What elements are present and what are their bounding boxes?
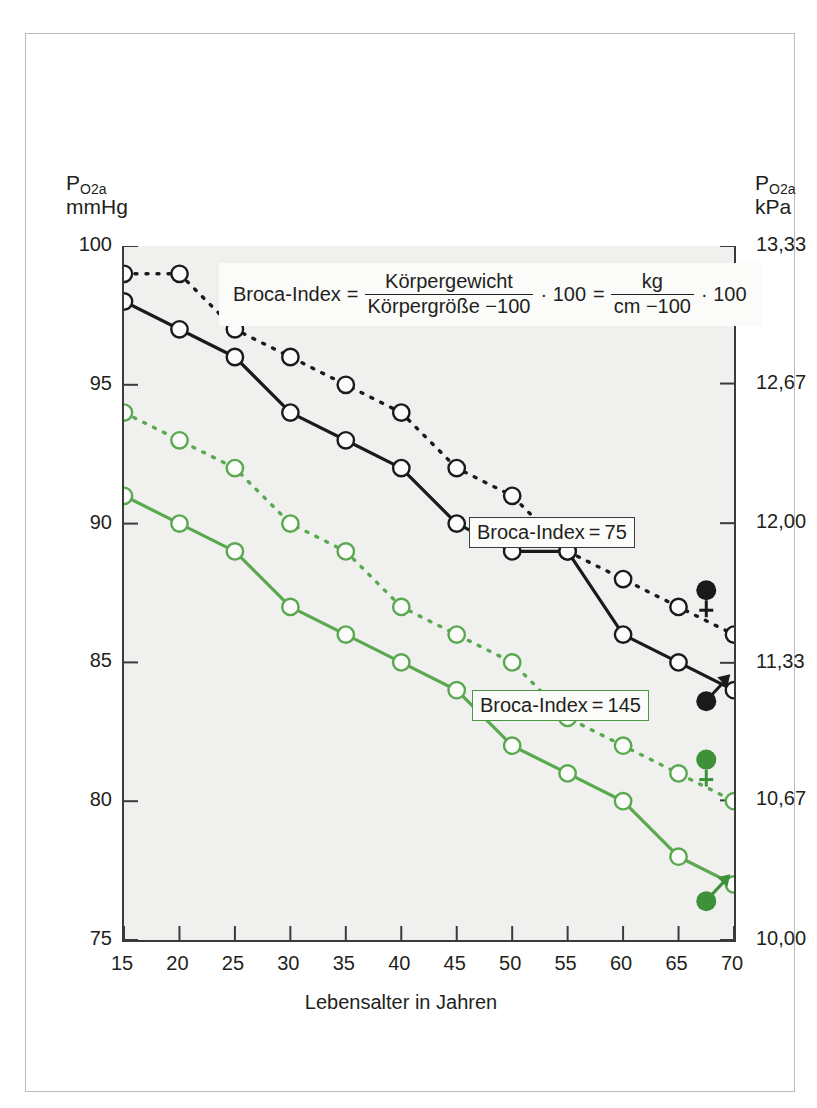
formula-numerator-1: Körpergewicht bbox=[382, 271, 516, 294]
series-marker bbox=[124, 404, 132, 420]
female-head bbox=[696, 750, 716, 770]
x-axis-tick-label: 15 bbox=[92, 952, 152, 975]
series-marker bbox=[670, 654, 686, 670]
series-marker bbox=[449, 460, 465, 476]
series-marker bbox=[124, 293, 132, 309]
y-axis-right-tick-label: 13,33 bbox=[756, 233, 817, 256]
series-marker bbox=[393, 599, 409, 615]
series-marker bbox=[282, 349, 298, 365]
formula-equals-1: = bbox=[347, 283, 359, 305]
series-2 bbox=[124, 293, 734, 698]
series-marker bbox=[171, 321, 187, 337]
formula-lhs: Broca-Index bbox=[233, 283, 341, 305]
x-axis-tick-label: 55 bbox=[536, 952, 596, 975]
x-axis-title-text: Lebensalter in Jahren bbox=[305, 991, 497, 1014]
series-marker bbox=[282, 515, 298, 531]
annotation-broca-index-75: Broca-Index = 75 bbox=[469, 517, 635, 548]
x-axis-tick-label: 40 bbox=[369, 952, 429, 975]
series-marker bbox=[449, 626, 465, 642]
series-marker bbox=[227, 349, 243, 365]
female-head bbox=[696, 580, 716, 600]
series-marker bbox=[504, 488, 520, 504]
legend-female-black-icon bbox=[696, 580, 716, 617]
formula-denominator-1: Körpergröße −100 bbox=[365, 294, 534, 318]
y-axis-right-tick-label: 12,00 bbox=[756, 510, 817, 533]
legend-male-green-icon bbox=[696, 874, 730, 911]
plot-area bbox=[122, 246, 736, 942]
y-axis-left-title-unit: mmHg bbox=[66, 195, 128, 218]
series-marker bbox=[615, 626, 631, 642]
y-axis-left-tick-label: 90 bbox=[50, 511, 112, 534]
y-axis-left-tick-label: 95 bbox=[50, 372, 112, 395]
formula-denominator-2: cm −100 bbox=[611, 294, 694, 318]
series-line bbox=[124, 274, 734, 635]
x-axis-tick-label: 35 bbox=[314, 952, 374, 975]
y-axis-left-title-subscript: O2a bbox=[80, 181, 106, 197]
series-marker bbox=[393, 460, 409, 476]
formula-numerator-2: kg bbox=[639, 271, 666, 294]
series-marker bbox=[615, 738, 631, 754]
series-marker bbox=[559, 765, 575, 781]
x-axis-tick-label: 60 bbox=[591, 952, 651, 975]
series-marker bbox=[171, 432, 187, 448]
y-axis-left-title: PO2a mmHg bbox=[66, 171, 128, 220]
series-marker bbox=[393, 404, 409, 420]
series-marker bbox=[615, 793, 631, 809]
x-axis-tick-label: 50 bbox=[480, 952, 540, 975]
y-axis-left-tick-label: 100 bbox=[50, 233, 112, 256]
formula-fraction-2: kg cm −100 bbox=[611, 271, 694, 317]
y-axis-right-title-subscript: O2a bbox=[769, 181, 795, 197]
formula-multiplier-2: · 100 bbox=[700, 283, 748, 305]
series-marker bbox=[393, 654, 409, 670]
figure-panel: PO2a mmHg PO2a kPa 1009590858075 13,3312… bbox=[25, 33, 795, 1092]
series-marker bbox=[171, 515, 187, 531]
series-canvas bbox=[124, 246, 734, 940]
x-axis-tick-label: 70 bbox=[702, 952, 762, 975]
series-3 bbox=[124, 404, 734, 809]
y-axis-right-tick-label: 11,33 bbox=[756, 650, 817, 673]
series-marker bbox=[124, 266, 132, 282]
y-axis-right-title-unit: kPa bbox=[755, 195, 791, 218]
y-axis-right-title: PO2a kPa bbox=[755, 171, 795, 220]
series-marker bbox=[338, 626, 354, 642]
y-axis-right-tick-label: 10,67 bbox=[756, 787, 817, 810]
legend-female-green-icon bbox=[696, 750, 716, 787]
formula-fraction-1: Körpergewicht Körpergröße −100 bbox=[365, 271, 534, 317]
series-line bbox=[124, 302, 734, 691]
x-axis-title: Lebensalter in Jahren bbox=[26, 991, 794, 1014]
series-marker bbox=[670, 599, 686, 615]
x-axis-tick-label: 65 bbox=[647, 952, 707, 975]
series-marker bbox=[338, 432, 354, 448]
x-axis-tick-label: 45 bbox=[425, 952, 485, 975]
series-marker bbox=[282, 404, 298, 420]
series-marker bbox=[670, 849, 686, 865]
series-marker bbox=[615, 571, 631, 587]
x-axis-tick-label: 25 bbox=[203, 952, 263, 975]
series-marker bbox=[124, 488, 132, 504]
broca-formula-box: Broca-Index = Körpergewicht Körpergröße … bbox=[219, 263, 762, 326]
formula-equals-2: = bbox=[593, 283, 605, 305]
series-marker bbox=[726, 793, 734, 809]
series-line bbox=[124, 413, 734, 802]
x-axis-tick-label: 30 bbox=[258, 952, 318, 975]
y-axis-right-tick-label: 10,00 bbox=[756, 927, 817, 950]
y-axis-left-tick-label: 80 bbox=[50, 788, 112, 811]
series-marker bbox=[449, 682, 465, 698]
series-marker bbox=[282, 599, 298, 615]
y-axis-left-tick-label: 75 bbox=[50, 927, 112, 950]
x-axis-tick-label: 20 bbox=[147, 952, 207, 975]
series-marker bbox=[670, 765, 686, 781]
series-marker bbox=[227, 543, 243, 559]
y-axis-left-title-symbol: P bbox=[66, 171, 80, 194]
y-axis-right-title-symbol: P bbox=[755, 171, 769, 194]
formula-multiplier-1: · 100 bbox=[539, 283, 587, 305]
series-marker bbox=[338, 543, 354, 559]
series-marker bbox=[338, 377, 354, 393]
series-marker bbox=[504, 654, 520, 670]
y-axis-right-tick-label: 12,67 bbox=[756, 371, 817, 394]
series-marker bbox=[227, 460, 243, 476]
annotation-broca-index-145: Broca-Index = 145 bbox=[472, 690, 649, 721]
series-marker bbox=[449, 515, 465, 531]
series-marker bbox=[504, 738, 520, 754]
y-axis-left-tick-label: 85 bbox=[50, 649, 112, 672]
